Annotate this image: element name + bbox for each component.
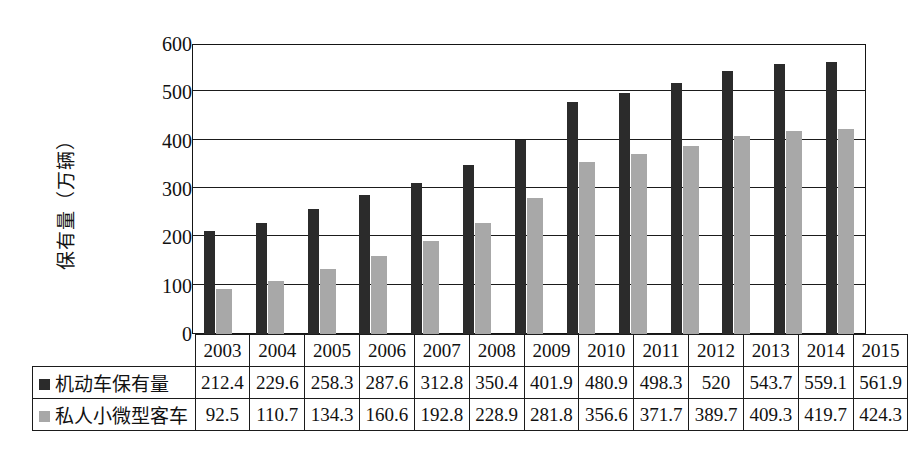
- table-cell-value: 409.3: [743, 399, 798, 431]
- table-cell-value: 287.6: [360, 367, 415, 399]
- legend-swatch-icon: [39, 379, 50, 390]
- table-row-years: 2003200420052006200720082009201020112012…: [33, 335, 908, 367]
- table-header-year: 2004: [250, 335, 305, 367]
- legend-label: 机动车保有量: [55, 373, 169, 395]
- table-cell-value: 160.6: [360, 399, 415, 431]
- table-cell-value: 401.9: [524, 367, 579, 399]
- table-cell-value: 498.3: [634, 367, 689, 399]
- table-cell-value: 281.8: [524, 399, 579, 431]
- data-table: 2003200420052006200720082009201020112012…: [32, 334, 908, 431]
- y-tick-label: 300: [136, 179, 192, 199]
- table-cell-value: 110.7: [250, 399, 305, 431]
- table-row: 私人小微型客车92.5110.7134.3160.6192.8228.9281.…: [33, 399, 908, 431]
- table-cell-value: 424.3: [853, 399, 908, 431]
- table-cell-value: 350.4: [469, 367, 524, 399]
- y-axis-title: 保有量（万辆）: [51, 70, 78, 330]
- table-cell-value: 561.9: [853, 367, 908, 399]
- legend-item-motor-vehicles: 机动车保有量: [33, 367, 196, 399]
- table-cell-value: 419.7: [798, 399, 853, 431]
- y-tick-label: 600: [136, 34, 192, 54]
- table-cell-value: 134.3: [305, 399, 360, 431]
- table-cell-value: 520: [689, 367, 744, 399]
- gridline: [193, 187, 865, 188]
- table-cell-value: 312.8: [414, 367, 469, 399]
- table-header-year: 2011: [634, 335, 689, 367]
- table-cell-value: 192.8: [414, 399, 469, 431]
- legend-swatch-icon: [39, 411, 50, 422]
- table-row: 机动车保有量212.4229.6258.3287.6312.8350.4401.…: [33, 367, 908, 399]
- table-cell-value: 229.6: [250, 367, 305, 399]
- table-header-year: 2003: [195, 335, 250, 367]
- table-cell-value: 389.7: [689, 399, 744, 431]
- table-header-year: 2008: [469, 335, 524, 367]
- table-corner-cell: [33, 335, 196, 367]
- y-axis-ticks: 0100200300400500600: [118, 44, 192, 334]
- table-cell-value: 480.9: [579, 367, 634, 399]
- table-cell-value: 228.9: [469, 399, 524, 431]
- gridline: [193, 139, 865, 140]
- table-cell-value: 212.4: [195, 367, 250, 399]
- table-cell-value: 543.7: [743, 367, 798, 399]
- table-cell-value: 371.7: [634, 399, 689, 431]
- table-header-year: 2015: [853, 335, 908, 367]
- table-header-year: 2013: [743, 335, 798, 367]
- table-cell-value: 258.3: [305, 367, 360, 399]
- y-tick-label: 200: [136, 227, 192, 247]
- table-cell-value: 92.5: [195, 399, 250, 431]
- table-header-year: 2007: [414, 335, 469, 367]
- legend-label: 私人小微型客车: [55, 405, 188, 427]
- table-cell-value: 559.1: [798, 367, 853, 399]
- table-header-year: 2006: [360, 335, 415, 367]
- table-header-year: 2009: [524, 335, 579, 367]
- table-header-year: 2005: [305, 335, 360, 367]
- y-tick-label: 500: [136, 82, 192, 102]
- table-cell-value: 356.6: [579, 399, 634, 431]
- gridline: [193, 284, 865, 285]
- gridline: [193, 235, 865, 236]
- table-header-year: 2014: [798, 335, 853, 367]
- plot-area: [192, 44, 866, 334]
- y-tick-label: 100: [136, 276, 192, 296]
- y-tick-label: 400: [136, 131, 192, 151]
- gridline: [193, 90, 865, 91]
- legend-item-private-small-cars: 私人小微型客车: [33, 399, 196, 431]
- table-header-year: 2012: [689, 335, 744, 367]
- table-header-year: 2010: [579, 335, 634, 367]
